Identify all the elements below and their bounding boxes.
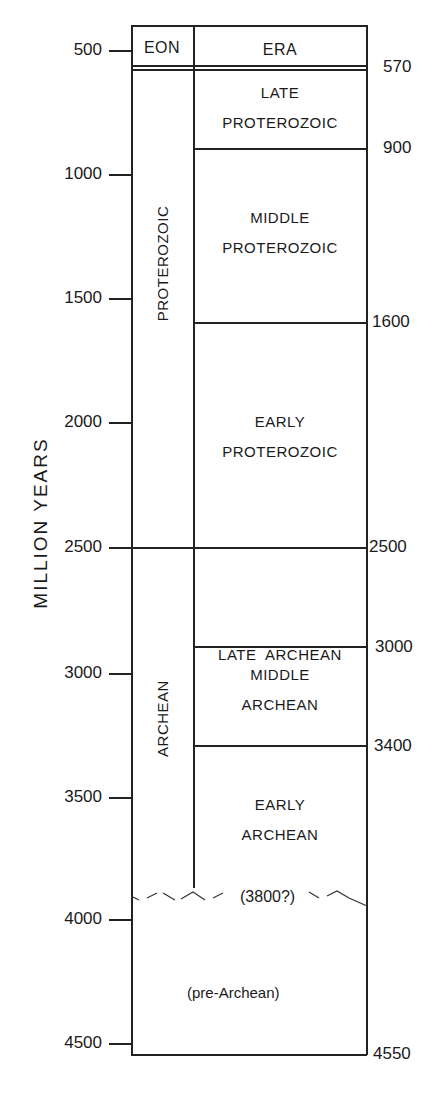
box-top <box>131 25 367 27</box>
tick-label: 3000 <box>22 664 102 682</box>
era-early-archean: EARLY ARCHEAN <box>194 790 366 850</box>
era-line: ARCHEAN <box>194 820 366 850</box>
tick-label: 2000 <box>22 413 102 431</box>
boundary-1600 <box>194 322 367 324</box>
pre-archean-label: (pre-Archean) <box>187 984 280 1001</box>
boundary-label: 900 <box>383 139 411 157</box>
boundary-label: 4550 <box>373 1045 411 1063</box>
boundary-label: 3000 <box>375 638 413 656</box>
eon-header: EON <box>131 33 193 63</box>
boundary-3400 <box>194 745 367 747</box>
era-line: LATE <box>194 78 366 108</box>
eon-archean: ARCHEAN <box>154 679 171 759</box>
era-line: ARCHEAN <box>194 690 366 720</box>
boundary-label: 3400 <box>374 737 412 755</box>
tick-mark <box>109 673 131 675</box>
axis-title: MILLION YEARS <box>30 437 52 608</box>
boundary-label: 570 <box>383 58 411 76</box>
era-early-proterozoic: EARLY PROTEROZOIC <box>194 407 366 467</box>
tick-label: 3500 <box>22 788 102 806</box>
era-late-proterozoic: LATE PROTEROZOIC <box>194 78 366 138</box>
tick-mark <box>109 919 131 921</box>
boundary-900 <box>194 148 367 150</box>
era-middle-archean: MIDDLE ARCHEAN <box>194 660 366 720</box>
tick-mark <box>109 174 131 176</box>
tick-label: 1500 <box>22 289 102 307</box>
era-line: PROTEROZOIC <box>194 108 366 138</box>
tick-label: 500 <box>22 41 102 59</box>
era-line: PROTEROZOIC <box>194 437 366 467</box>
tick-mark <box>109 422 131 424</box>
tick-mark <box>109 50 131 52</box>
box-bottom <box>131 1054 367 1056</box>
era-line: MIDDLE <box>194 203 366 233</box>
tick-mark <box>109 298 131 300</box>
tick-label: 1000 <box>22 165 102 183</box>
era-header: ERA <box>194 35 366 65</box>
header-line <box>131 69 367 71</box>
era-line: EARLY <box>194 407 366 437</box>
era-line: PROTEROZOIC <box>194 233 366 263</box>
boundary-label: 2500 <box>369 538 407 556</box>
boundary-2500 <box>111 547 367 549</box>
tick-mark <box>109 797 131 799</box>
boundary-label: 1600 <box>372 313 410 331</box>
era-middle-proterozoic: MIDDLE PROTEROZOIC <box>194 203 366 263</box>
tick-mark <box>109 1043 131 1045</box>
tick-label: 2500 <box>22 538 102 556</box>
era-line: MIDDLE <box>194 660 366 690</box>
tick-label: 4500 <box>22 1034 102 1052</box>
eon-proterozoic: PROTEROZOIC <box>154 204 171 324</box>
tick-label: 4000 <box>22 910 102 928</box>
era-line: EARLY <box>194 790 366 820</box>
header-line <box>131 65 367 67</box>
uncertain-boundary-label: (3800?) <box>240 888 295 906</box>
